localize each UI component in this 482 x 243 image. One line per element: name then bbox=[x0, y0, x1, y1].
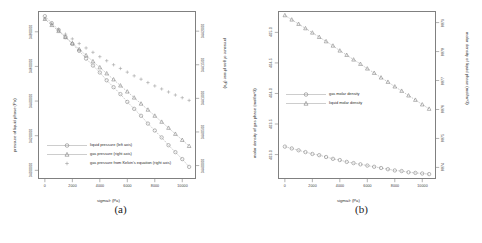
legend-label-liquid-pressure: liquid pressure (left axis) bbox=[90, 142, 132, 147]
x-tick-label: 8000 bbox=[151, 184, 159, 188]
panel-caption-a: (a) bbox=[0, 203, 241, 215]
legend-marker-circle-icon bbox=[46, 141, 88, 150]
legend-label-gas-pressure: gas pressure (right axis) bbox=[90, 151, 132, 156]
y-tick-label-right: 3440500 bbox=[201, 125, 205, 140]
y-tick-label-right: 8875 bbox=[441, 134, 445, 142]
y-tick-label-left: 3460000 bbox=[29, 59, 33, 74]
legend-marker-plus-icon bbox=[46, 159, 88, 168]
y-tick-label-right: 8877 bbox=[441, 76, 445, 84]
x-tick-label: 4000 bbox=[96, 184, 104, 188]
y-tick-label-left: 404.0 bbox=[269, 89, 273, 99]
y-axis-title-left-a: pressure of liquid phase (Pa) bbox=[12, 98, 17, 152]
x-tick-label: 6000 bbox=[363, 184, 371, 188]
legend-marker-triangle-icon bbox=[285, 99, 327, 108]
legend-label-liquid-density: liquid molar density bbox=[329, 100, 362, 105]
legend-label-gas-density: gas molar density bbox=[329, 91, 360, 96]
x-tick-label: 0 bbox=[44, 184, 46, 188]
y-tick-label-left: 403.0 bbox=[269, 150, 273, 160]
y-tick-label-left: 3480000 bbox=[29, 24, 33, 39]
y-tick-label-left: 3440000 bbox=[29, 94, 33, 109]
panel-b: 0200040006000800010000403.0403.5404.0404… bbox=[241, 0, 482, 243]
y-tick-label-right: 3441500 bbox=[201, 57, 205, 72]
y-tick-label-right: 3441000 bbox=[201, 91, 205, 106]
y-tick-label-right: 3440000 bbox=[201, 158, 205, 173]
y-tick-label-left: 3420000 bbox=[29, 128, 33, 143]
y-tick-label-left: 3400000 bbox=[29, 163, 33, 178]
x-tick-label: 8000 bbox=[391, 184, 399, 188]
legend-label-kelvin-pressure: gas pressure from Kelvin's equation (rig… bbox=[90, 160, 171, 165]
legend-item-gas-density: gas molar density bbox=[285, 90, 327, 99]
y-tick-label-left: 404.5 bbox=[269, 58, 273, 68]
x-tick-label: 4000 bbox=[336, 184, 344, 188]
legend-item-liquid-pressure: liquid pressure (left axis) bbox=[46, 141, 88, 150]
y-tick-label-right: 8878 bbox=[441, 47, 445, 55]
legend-b: gas molar density liquid molar density bbox=[285, 90, 327, 108]
y-tick-label-right: 8876 bbox=[441, 105, 445, 113]
y-axis-title-right-b: molar density of liquid phase (mol/m^3) bbox=[465, 32, 470, 105]
legend-marker-circle-icon bbox=[285, 90, 327, 99]
x-tick-label: 0 bbox=[284, 184, 286, 188]
y-tick-label-left: 403.5 bbox=[269, 119, 273, 129]
legend-marker-triangle-icon bbox=[46, 150, 88, 159]
figure-container: 0200040006000800010000340000034200003440… bbox=[0, 0, 482, 243]
y-tick-label-left: 405.0 bbox=[269, 28, 273, 38]
y-axis-title-right-a: pressure of gas phase (Pa) bbox=[223, 38, 228, 89]
x-tick-label: 6000 bbox=[123, 184, 131, 188]
y-tick-label-right: 8874 bbox=[441, 163, 445, 171]
panel-a: 0200040006000800010000340000034200003440… bbox=[0, 0, 241, 243]
legend-item-kelvin-pressure: gas pressure from Kelvin's equation (rig… bbox=[46, 159, 88, 168]
x-tick-label: 2000 bbox=[68, 184, 76, 188]
y-axis-title-left-b: molar density of gas phase (mol/m^3) bbox=[252, 88, 257, 158]
y-tick-label-right: 8879 bbox=[441, 18, 445, 26]
legend-a: liquid pressure (left axis) gas pressure… bbox=[46, 141, 88, 168]
x-tick-label: 10000 bbox=[177, 184, 188, 188]
x-tick-label: 10000 bbox=[417, 184, 428, 188]
panel-caption-b: (b) bbox=[241, 203, 482, 215]
legend-item-liquid-density: liquid molar density bbox=[285, 99, 327, 108]
x-tick-label: 2000 bbox=[308, 184, 316, 188]
y-tick-label-right: 3442000 bbox=[201, 24, 205, 39]
legend-item-gas-pressure: gas pressure (right axis) bbox=[46, 150, 88, 159]
